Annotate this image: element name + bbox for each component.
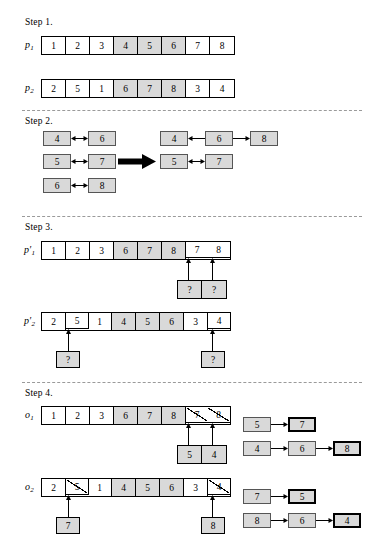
replacement-cell: 4 (202, 446, 226, 463)
replacement-cell: 8 (201, 517, 225, 534)
array-cell: 1 (88, 479, 112, 496)
array-cell: 5 (66, 80, 90, 97)
array-cell: 1 (42, 407, 66, 424)
array-cell: 6 (114, 407, 138, 424)
array-cell: 8 (162, 407, 186, 424)
node-box: 6 (88, 131, 116, 146)
replacement-pair-o1: 5 4 (177, 445, 227, 464)
double-arrow-icon (71, 181, 88, 190)
unknown-cell: ? (178, 281, 202, 298)
array-cell: 3 (186, 80, 210, 97)
chain-node: 6 (288, 513, 316, 528)
array-cell: 3 (184, 479, 208, 496)
array-cell-highlighted: 4 (207, 312, 231, 329)
chain-node: 7 (243, 489, 271, 504)
row-label-o2-sub: 2 (30, 486, 34, 494)
row-label-o2: o2 (25, 481, 34, 494)
chain-node: 8 (243, 513, 271, 528)
replacement-cell: 5 (178, 446, 202, 463)
node-box: 7 (205, 154, 233, 169)
row-label-p1: p1 (25, 39, 34, 52)
arrow-right-icon (316, 444, 333, 453)
chain-node-highlighted: 7 (288, 417, 316, 432)
separator-2 (22, 216, 362, 217)
array-p1-prime: 1 2 3 6 7 8 7 8 (41, 241, 231, 260)
node-box: 6 (43, 178, 71, 193)
row-label-o1-sub: 1 (30, 414, 34, 422)
separator-1 (22, 110, 362, 111)
separator-3 (22, 382, 362, 383)
row-label-p2-prime-sub: 2 (31, 320, 35, 328)
node-box: 4 (160, 131, 188, 146)
array-cell: 7 (138, 80, 162, 97)
arrow-up-icon (208, 495, 217, 517)
node-box: 8 (250, 131, 278, 146)
array-cell: 1 (42, 242, 66, 259)
chain-node: 4 (243, 441, 271, 456)
chain-node-highlighted: 4 (333, 513, 361, 528)
chain-node-highlighted: 8 (333, 441, 361, 456)
arrow-up-icon (64, 495, 73, 517)
array-cell: 7 (186, 37, 210, 54)
arrow-right-icon (271, 516, 288, 525)
row-label-p1-prime: p′1 (24, 244, 35, 257)
arrow-right-icon (316, 516, 333, 525)
chain-node: 6 (288, 441, 316, 456)
array-cell-struck: 8 (207, 406, 231, 423)
arrow-up-icon (208, 258, 217, 280)
array-cell-highlighted: 5 (65, 312, 89, 329)
array-cell: 5 (136, 479, 160, 496)
array-p2: 2 5 1 6 7 8 3 4 (41, 79, 235, 98)
chain-node-highlighted: 5 (288, 489, 316, 504)
arrow-right-icon (271, 420, 288, 429)
arrow-right-icon (233, 134, 250, 143)
arrow-right-icon (271, 444, 288, 453)
node-box: 8 (88, 178, 116, 193)
array-cell: 4 (112, 313, 136, 330)
array-cell: 2 (66, 407, 90, 424)
node-box: 5 (160, 154, 188, 169)
arrow-up-icon (184, 423, 193, 445)
array-cell: 6 (114, 242, 138, 259)
node-box: 7 (88, 154, 116, 169)
replacement-cell: 7 (56, 517, 80, 534)
row-label-p2-prime: p′2 (24, 315, 35, 328)
array-cell: 2 (42, 80, 66, 97)
node-box: 4 (43, 131, 71, 146)
array-cell-highlighted: 7 (185, 241, 209, 258)
step-1-heading: Step 1. (25, 17, 53, 27)
figure-canvas: Step 1. p1 1 2 3 4 5 6 7 8 p2 2 5 1 6 7 … (0, 0, 378, 538)
array-cell: 2 (42, 479, 66, 496)
step-2-heading: Step 2. (25, 116, 53, 126)
array-cell: 4 (112, 479, 136, 496)
array-cell: 3 (90, 407, 114, 424)
array-cell: 5 (136, 313, 160, 330)
array-cell-highlighted: 8 (207, 241, 231, 258)
double-arrow-icon (188, 157, 205, 166)
arrow-up-icon (208, 423, 217, 445)
array-cell-struck: 5 (65, 478, 89, 495)
unknown-cell: ? (56, 351, 80, 368)
step-4-heading: Step 4. (25, 388, 53, 398)
array-cell: 4 (210, 80, 234, 97)
array-cell: 7 (138, 242, 162, 259)
array-cell: 2 (66, 242, 90, 259)
array-cell: 3 (90, 37, 114, 54)
unknown-cell: ? (201, 351, 225, 368)
array-cell: 6 (160, 479, 184, 496)
row-label-p2-sub: 2 (30, 87, 34, 95)
array-o2: 2 5 1 4 5 6 3 4 (41, 478, 231, 497)
unknown-cell: ? (202, 281, 226, 298)
array-cell: 1 (90, 80, 114, 97)
array-cell: 3 (90, 242, 114, 259)
arrow-right-icon (271, 492, 288, 501)
array-p2-prime: 2 5 1 4 5 6 3 4 (41, 312, 231, 331)
array-cell: 2 (66, 37, 90, 54)
row-label-o1: o1 (25, 409, 34, 422)
array-cell-struck: 4 (207, 478, 231, 495)
array-cell: 6 (114, 80, 138, 97)
arrow-left-icon (188, 134, 205, 143)
row-label-p1-prime-sub: 1 (31, 249, 35, 257)
unknown-pair-p1-prime: ? ? (177, 280, 227, 299)
chain-node: 5 (243, 417, 271, 432)
